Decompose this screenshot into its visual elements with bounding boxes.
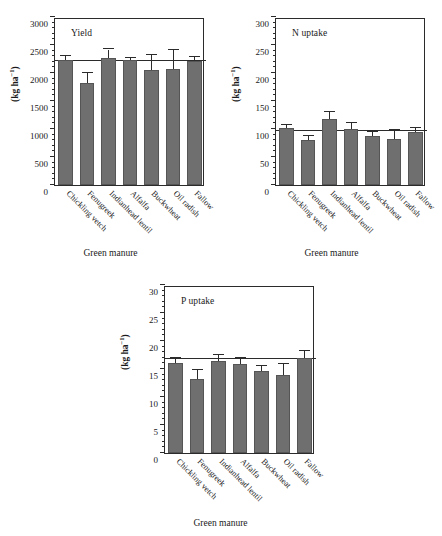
bar-group	[362, 17, 383, 185]
bar-group	[319, 17, 340, 185]
bar-group	[276, 17, 297, 185]
bar	[297, 358, 312, 453]
bar	[144, 70, 159, 185]
bar	[123, 60, 138, 185]
bar	[80, 83, 95, 185]
bar	[101, 58, 116, 185]
bar	[279, 128, 294, 185]
error-bar	[283, 364, 284, 375]
x-category-labels-puptake: Chickling vetchFenugreekIndianhead lenti…	[164, 454, 314, 516]
bar-group	[76, 17, 97, 185]
error-bar-cap	[303, 135, 314, 136]
error-bar	[394, 130, 395, 139]
x-category-labels-nuptake: Chickling vetchFenugreekIndianhead lenti…	[275, 186, 425, 248]
error-bar	[329, 112, 330, 119]
error-bar-cap	[346, 122, 357, 123]
bar-group	[162, 17, 183, 185]
bar	[322, 119, 337, 185]
bar	[187, 61, 202, 185]
bar-series-nuptake	[276, 19, 424, 185]
bar-group	[55, 17, 76, 185]
error-bar	[108, 50, 109, 59]
error-bar	[173, 50, 174, 68]
error-bar-cap	[367, 131, 378, 132]
bar-group	[383, 17, 404, 185]
error-bar	[218, 355, 219, 361]
error-bar-cap	[103, 48, 114, 49]
bar	[301, 140, 316, 185]
bar-group	[119, 17, 140, 185]
bar	[233, 364, 248, 453]
error-bar-cap	[213, 354, 224, 355]
error-bar-cap	[281, 124, 292, 125]
plot-frame-puptake: P uptake 051015202530	[164, 286, 314, 454]
error-bar-cap	[389, 129, 400, 130]
error-bar-cap	[146, 54, 157, 55]
error-bar-cap	[278, 363, 289, 364]
error-bar	[240, 358, 241, 364]
error-bar	[197, 370, 198, 380]
plot-frame-yield: Yield 050010001500200025003000	[54, 18, 204, 186]
chart-panel-nuptake: (kg ha−1) N uptake 050100150200250300 Ch…	[221, 0, 442, 268]
bar-group	[165, 285, 186, 453]
error-bar	[304, 351, 305, 358]
error-bar	[308, 136, 309, 140]
bar-group	[297, 17, 318, 185]
error-bar-cap	[125, 57, 136, 58]
bar	[276, 375, 291, 453]
y-axis-title: (kg ha−1)	[229, 66, 241, 102]
bar-group	[405, 17, 426, 185]
error-bar	[286, 125, 287, 128]
bar	[58, 60, 73, 185]
error-bar-cap	[299, 350, 310, 351]
error-bar-cap	[324, 111, 335, 112]
bar	[166, 69, 181, 185]
bar-group	[98, 17, 119, 185]
bar-group	[208, 285, 229, 453]
error-bar-cap	[410, 127, 421, 128]
error-bar-cap	[170, 357, 181, 358]
bar	[190, 379, 205, 453]
bar-series-yield	[55, 19, 203, 185]
error-bar-cap	[82, 72, 93, 73]
bar	[254, 371, 269, 453]
bar	[168, 363, 183, 453]
bar-group	[294, 285, 315, 453]
bar	[408, 132, 423, 185]
bar-group	[340, 17, 361, 185]
error-bar	[87, 73, 88, 83]
x-axis-title: Green manure	[221, 248, 442, 258]
error-bar	[261, 366, 262, 371]
x-category-labels-yield: Chickling vetchFenugreekIndianhead lenti…	[54, 186, 204, 248]
error-bar	[415, 128, 416, 132]
y-axis-title: (kg ha−1)	[8, 66, 20, 102]
error-bar-cap	[60, 55, 71, 56]
bar-group	[184, 17, 205, 185]
error-bar	[194, 57, 195, 61]
error-bar-cap	[192, 369, 203, 370]
error-bar	[130, 58, 131, 59]
chart-panel-yield: (kg ha−1) Yield 050010001500200025003000…	[0, 0, 221, 268]
bar	[387, 139, 402, 185]
bar-group	[251, 285, 272, 453]
error-bar	[65, 56, 66, 59]
bar	[211, 361, 226, 453]
error-bar	[151, 55, 152, 70]
x-axis-title: Green manure	[0, 248, 221, 258]
error-bar	[175, 358, 176, 364]
error-bar	[372, 132, 373, 136]
y-axis-title: (kg ha−1)	[118, 334, 130, 370]
bar-group	[229, 285, 250, 453]
chart-panel-puptake: (kg ha−1) P uptake 051015202530 Chicklin…	[110, 268, 331, 536]
error-bar	[351, 123, 352, 129]
bar	[365, 136, 380, 185]
x-axis-title: Green manure	[110, 518, 331, 528]
error-bar-cap	[235, 357, 246, 358]
bar-series-puptake	[165, 287, 313, 453]
error-bar-cap	[256, 365, 267, 366]
bar-group	[272, 285, 293, 453]
bar	[344, 129, 359, 185]
error-bar-cap	[168, 49, 179, 50]
error-bar-cap	[189, 56, 200, 57]
bar-group	[141, 17, 162, 185]
